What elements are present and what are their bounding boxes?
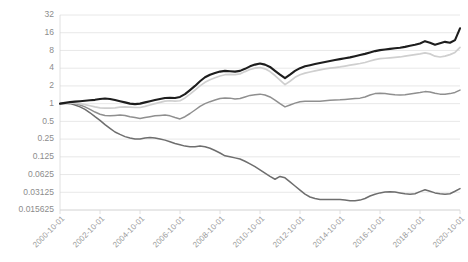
series-line-3 <box>60 28 460 104</box>
chart-container: 321684210.50.250.1250.06250.031250.01562… <box>0 0 468 262</box>
y-axis-tick-label: 0.015625 <box>19 204 55 214</box>
x-axis-tick-label: 2016-10-01 <box>351 214 387 250</box>
y-axis-tick-label: 16 <box>45 27 55 37</box>
y-axis-tick-label: 0.125 <box>33 151 55 161</box>
y-axis-tick-label: 32 <box>45 9 55 19</box>
line-chart: 321684210.50.250.1250.06250.031250.01562… <box>0 0 468 262</box>
x-axis-tick-marks <box>60 210 460 214</box>
x-axis-tick-label: 2012-10-01 <box>271 214 307 250</box>
x-axis-tick-label: 2014-10-01 <box>311 214 347 250</box>
y-axis-tick-label: 4 <box>49 62 54 72</box>
x-axis-tick-label: 2004-10-01 <box>111 214 147 250</box>
x-axis-tick-label: 2006-10-01 <box>151 214 187 250</box>
y-axis-tick-label: 2 <box>49 80 54 90</box>
series-line-2 <box>60 47 460 108</box>
gridlines <box>60 15 460 210</box>
y-axis-tick-label: 1 <box>49 98 54 108</box>
y-axis-tick-labels: 321684210.50.250.1250.06250.031250.01562… <box>19 9 55 214</box>
x-axis-tick-label: 2018-10-01 <box>391 214 427 250</box>
x-axis-tick-label: 2002-10-01 <box>71 214 107 250</box>
x-axis-tick-label: 2020-10-01 <box>431 214 467 250</box>
y-axis-tick-label: 0.0625 <box>28 169 54 179</box>
x-axis-tick-labels: 2000-10-012002-10-012004-10-012006-10-01… <box>31 214 467 250</box>
y-axis-tick-label: 0.5 <box>42 116 54 126</box>
x-axis-tick-label: 2010-10-01 <box>231 214 267 250</box>
series-line-0 <box>60 103 460 201</box>
series-line-1 <box>60 90 460 119</box>
y-axis-tick-label: 0.25 <box>37 133 54 143</box>
x-axis-tick-label: 2008-10-01 <box>191 214 227 250</box>
y-axis-tick-label: 8 <box>49 45 54 55</box>
x-axis-tick-label: 2000-10-01 <box>31 214 67 250</box>
axis-lines <box>60 15 460 210</box>
y-axis-tick-label: 0.03125 <box>23 187 54 197</box>
